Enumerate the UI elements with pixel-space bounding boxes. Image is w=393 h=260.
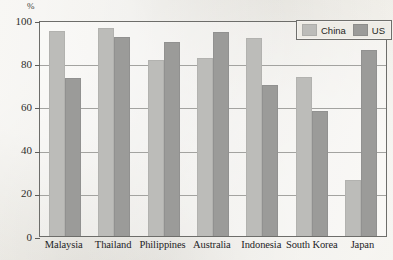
chart-legend: China US (296, 20, 392, 40)
legend-item-us: US (353, 24, 385, 36)
bar-group (188, 22, 237, 236)
legend-swatch-us-icon (353, 24, 368, 36)
y-axis-tick-label: 60 (6, 102, 32, 113)
bar-group (337, 22, 386, 236)
bar-chart: % 020406080100 MalaysiaThailandPhilippin… (0, 0, 393, 260)
x-axis-label-south-korea: South Korea (286, 239, 338, 259)
x-axis-category-labels: MalaysiaThailandPhilippinesAustraliaIndo… (39, 239, 387, 259)
y-axis-tick-label: 80 (6, 59, 32, 70)
bar-groups (40, 22, 386, 236)
bar-china-philippines (148, 60, 164, 236)
y-axis-tick-label: 100 (6, 16, 32, 27)
y-axis-tick-label: 20 (6, 188, 32, 199)
bar-us-philippines (164, 42, 180, 236)
bar-china-japan (345, 180, 361, 236)
bar-us-malaysia (65, 78, 81, 236)
bar-china-indonesia (246, 38, 262, 236)
x-axis-label-malaysia: Malaysia (39, 239, 88, 259)
legend-label-us: US (372, 25, 385, 36)
bar-china-thailand (98, 28, 114, 236)
bar-china-south-korea (296, 77, 312, 236)
bar-group (89, 22, 138, 236)
bar-us-south-korea (312, 111, 328, 236)
bar-china-malaysia (49, 31, 65, 236)
bar-us-australia (213, 32, 229, 236)
x-axis-label-philippines: Philippines (138, 239, 187, 259)
bar-us-indonesia (262, 85, 278, 236)
bar-group (287, 22, 336, 236)
x-axis-label-indonesia: Indonesia (237, 239, 286, 259)
bar-china-australia (197, 58, 213, 236)
legend-item-china: China (302, 24, 346, 36)
legend-label-china: China (321, 25, 346, 36)
bar-group (139, 22, 188, 236)
x-axis-label-australia: Australia (187, 239, 236, 259)
bar-us-thailand (114, 37, 130, 236)
y-axis-tick-label: 40 (6, 145, 32, 156)
plot-area (39, 21, 387, 237)
x-axis-label-japan: Japan (338, 239, 387, 259)
x-axis-label-thailand: Thailand (88, 239, 137, 259)
bar-group (40, 22, 89, 236)
bar-us-japan (361, 50, 377, 236)
y-axis-unit-label: % (27, 1, 35, 11)
bar-group (238, 22, 287, 236)
legend-swatch-china-icon (302, 24, 317, 36)
y-axis-tick-label: 0 (6, 232, 32, 243)
